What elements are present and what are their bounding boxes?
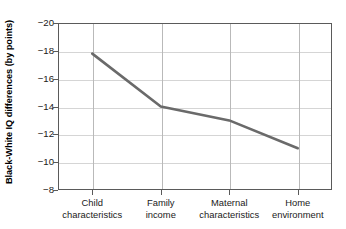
x-tick-mark [229, 190, 230, 195]
y-tick-label: −12 [4, 129, 54, 139]
y-tick-label: −18 [4, 46, 54, 56]
y-tick-label: −16 [4, 74, 54, 84]
x-category-line2: environment [250, 209, 346, 221]
y-tick-label: −10 [4, 157, 54, 167]
x-tick-mark [161, 190, 162, 195]
y-tick-label: −14 [4, 102, 54, 112]
chart-figure: Black-White IQ differences (by points) −… [0, 0, 346, 229]
series-polyline [92, 54, 298, 149]
y-tick-label: −20 [4, 18, 54, 28]
y-tick-mark [53, 190, 58, 191]
y-tick-label: −8 [4, 185, 54, 195]
x-category-label: Home environment [250, 197, 346, 220]
x-tick-mark [92, 190, 93, 195]
x-category-line1: Home [250, 197, 346, 209]
x-tick-mark [298, 190, 299, 195]
data-line-series [58, 23, 332, 190]
